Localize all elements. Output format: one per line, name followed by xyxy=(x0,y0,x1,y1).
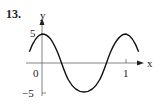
y-axis-label: y xyxy=(40,10,46,21)
x-tick-label-1: 1 xyxy=(123,68,129,79)
origin-label: 0 xyxy=(33,68,39,79)
x-axis-arrow-icon xyxy=(137,61,144,66)
x-axis-label: x xyxy=(147,58,153,69)
y-min-label: −5 xyxy=(22,88,34,99)
y-max-label: 5 xyxy=(30,28,36,39)
